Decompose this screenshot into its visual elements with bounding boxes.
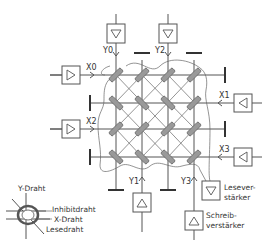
y0-label: Y0 [102, 46, 113, 55]
sense-amp-label-1: Lesever- [224, 183, 256, 192]
y2-label: Y2 [154, 46, 165, 55]
write-amp-label-2: verstärker [206, 221, 245, 230]
legend-inhibit-label: Inhibitdraht [52, 205, 96, 214]
x2-label: X2 [86, 117, 97, 126]
legend-x-wire-label: X-Draht [54, 215, 83, 224]
x1-label: X1 [219, 91, 230, 100]
y3-label: Y3 [180, 177, 191, 186]
legend-y-wire-label: Y-Draht [17, 184, 46, 193]
core-legend: Y-Draht Inhibitdraht X-Draht Lesedraht [6, 184, 96, 239]
write-amp-label-1: Schreib- [206, 211, 237, 220]
legend-sense-label: Lesedraht [46, 225, 83, 234]
sense-amp-label-2: stärker [224, 193, 251, 202]
x3-label: X3 [219, 145, 230, 154]
core-memory-diagram: Y0 Y2 Y1 Y3 X0 X2 X1 X3 Lesever- stärker… [0, 0, 269, 243]
sense-amplifier [202, 181, 220, 200]
x0-label: X0 [86, 63, 97, 72]
y1-label: Y1 [128, 177, 139, 186]
